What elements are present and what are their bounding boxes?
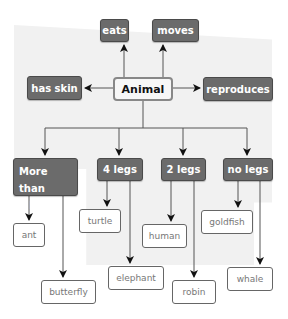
node-animal-label: Animal [122,83,165,96]
leaf-elephant: elephant [108,266,164,290]
node-has-skin-label: has skin [31,83,77,94]
node-more-than-4-legs-line2: 4 legs [19,197,72,214]
leaf-goldfish: goldfish [201,210,253,234]
node-4-legs-label: 4 legs [103,164,137,175]
leaf-human: human [142,224,187,248]
leaf-ant-label: ant [22,230,37,240]
node-moves-label: moves [157,25,194,36]
node-no-legs-label: no legs [228,164,269,175]
leaf-elephant-label: elephant [116,273,156,283]
leaf-butterfly: butterfly [41,280,96,304]
node-moves: moves [152,19,199,42]
node-reproduces: reproduces [203,77,273,101]
node-has-skin: has skin [27,76,82,100]
node-animal-root: Animal [113,77,173,101]
leaf-butterfly-label: butterfly [49,287,88,297]
leaf-robin-label: robin [183,287,206,297]
leaf-ant: ant [13,223,45,247]
leaf-whale-label: whale [237,274,264,284]
node-more-than-4-legs: More than 4 legs [13,158,78,196]
node-eats-label: eats [102,25,126,36]
node-2-legs: 2 legs [161,158,206,181]
node-more-than-4-legs-line1: More than [19,163,72,197]
leaf-robin: robin [172,280,216,304]
leaf-turtle: turtle [79,209,121,233]
leaf-whale: whale [227,267,273,291]
leaf-goldfish-label: goldfish [209,217,245,227]
leaf-human-label: human [149,231,180,241]
leaf-turtle-label: turtle [88,216,113,226]
node-reproduces-label: reproduces [206,84,270,95]
node-2-legs-label: 2 legs [167,164,201,175]
node-4-legs: 4 legs [97,158,143,181]
node-eats: eats [100,19,129,42]
node-no-legs: no legs [223,158,273,181]
